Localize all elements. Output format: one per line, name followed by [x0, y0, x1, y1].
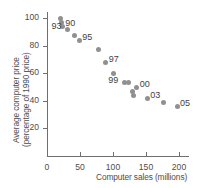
scatter-chart: Average computer price (percentage of 19…: [0, 0, 210, 188]
y-tick-label: 20: [17, 122, 39, 132]
y-tick-mark: [43, 128, 48, 129]
data-point: [131, 93, 136, 98]
x-tick-mark: [113, 152, 114, 157]
data-point: [126, 80, 131, 85]
x-tick-label: 50: [69, 162, 91, 172]
x-axis-label: Computer sales (millions): [96, 172, 187, 182]
x-tick-label: 150: [135, 162, 157, 172]
y-tick-label: 100: [17, 12, 39, 22]
x-tick-mark: [80, 152, 81, 157]
y-tick-label: 60: [17, 67, 39, 77]
data-point: [175, 104, 180, 109]
y-tick-mark: [43, 101, 48, 102]
y-tick-label: 40: [17, 95, 39, 105]
data-point: [72, 33, 77, 38]
data-point-label: 97: [109, 54, 119, 64]
data-point: [161, 100, 166, 105]
y-tick-mark: [43, 18, 48, 19]
data-point-label: 00: [140, 79, 150, 89]
data-point-label: 05: [180, 98, 190, 108]
data-point-label: 93: [51, 21, 61, 31]
y-axis-line: [47, 12, 48, 157]
x-tick-label: 200: [168, 162, 190, 172]
data-point: [65, 27, 70, 32]
x-tick-mark: [146, 152, 147, 157]
x-axis-line: [47, 156, 189, 157]
x-tick-label: 0: [36, 162, 58, 172]
data-point-label: 03: [150, 90, 160, 100]
x-tick-label: 100: [102, 162, 124, 172]
data-point: [96, 47, 101, 52]
data-point: [134, 85, 139, 90]
data-point: [145, 96, 150, 101]
data-point-label: 99: [108, 75, 118, 85]
y-tick-label: 80: [17, 40, 39, 50]
x-tick-mark: [179, 152, 180, 157]
data-point-label: 95: [82, 32, 92, 42]
y-tick-mark: [43, 46, 48, 47]
data-point: [103, 60, 108, 65]
data-point: [77, 38, 82, 43]
y-tick-mark: [43, 73, 48, 74]
